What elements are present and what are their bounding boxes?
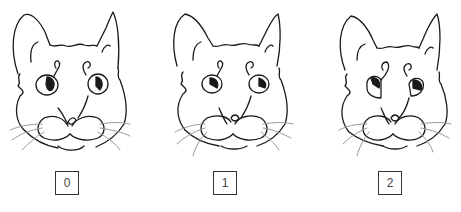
- score-box-2: 2: [378, 171, 402, 195]
- score-label-1: 1: [222, 176, 229, 190]
- score-label-2: 2: [387, 176, 394, 190]
- panel-score-0: 0: [0, 0, 150, 212]
- panel-score-2: 2: [315, 0, 461, 212]
- cat-face-drawing-2: [315, 0, 461, 165]
- score-box-0: 0: [55, 171, 79, 195]
- panel-score-1: 1: [155, 0, 305, 212]
- score-box-1: 1: [213, 171, 237, 195]
- cat-grimace-scale-figure: 0: [0, 0, 461, 212]
- score-label-0: 0: [64, 176, 71, 190]
- cat-face-drawing-1: [155, 0, 305, 165]
- cat-face-drawing-0: [0, 0, 150, 165]
